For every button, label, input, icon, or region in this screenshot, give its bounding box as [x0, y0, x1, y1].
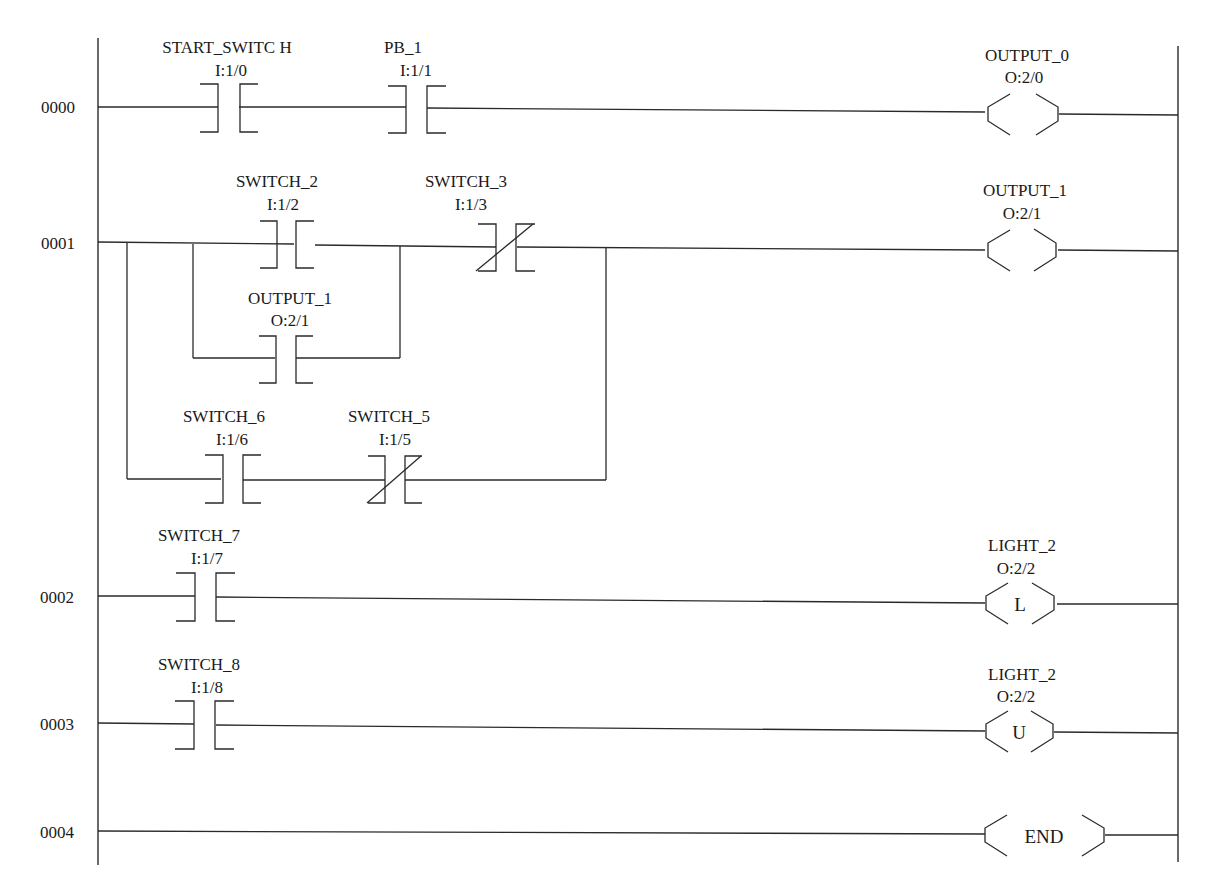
- contact-name: SWITCH_2: [236, 172, 318, 191]
- contact-address: I:1/6: [216, 430, 248, 449]
- coil-symbol: U: [1012, 722, 1026, 743]
- coil-address: O:2/0: [1005, 68, 1044, 87]
- rung-0000: 0000 START_SWITC H I:1/0 PB_1 I:1/1 OU: [41, 38, 1178, 135]
- contact-switch-6[interactable]: SWITCH_6 I:1/6: [183, 407, 265, 503]
- contact-address: I:1/5: [379, 430, 411, 449]
- contact-switch-7[interactable]: SWITCH_7 I:1/7: [158, 526, 241, 621]
- contact-address: I:1/3: [455, 195, 487, 214]
- output-coil-icon: [988, 229, 1056, 271]
- rung-0004: 0004 END: [40, 815, 1178, 856]
- coil-symbol: L: [1014, 594, 1026, 615]
- coil-address: O:2/2: [997, 559, 1036, 578]
- contact-pb-1[interactable]: PB_1 I:1/1: [384, 38, 446, 133]
- no-contact-icon: [259, 336, 313, 383]
- contact-name: SWITCH_6: [183, 407, 265, 426]
- coil-name: OUTPUT_0: [985, 46, 1069, 65]
- coil-output-0[interactable]: OUTPUT_0 O:2/0: [985, 46, 1069, 135]
- coil-output-1[interactable]: OUTPUT_1 O:2/1: [983, 181, 1067, 271]
- contact-switch-2[interactable]: SWITCH_2 I:1/2: [236, 172, 318, 268]
- rung-number: 0002: [40, 588, 74, 607]
- coil-symbol: END: [1024, 826, 1063, 847]
- coil-address: O:2/2: [997, 687, 1036, 706]
- contact-address: I:1/8: [191, 678, 223, 697]
- rung-0002: 0002 SWITCH_7 I:1/7 LIGHT_2 O:2/2 L: [40, 526, 1178, 624]
- contact-name: SWITCH_3: [425, 172, 507, 191]
- rung-number: 0001: [41, 234, 75, 253]
- rung-number: 0004: [40, 823, 75, 842]
- no-contact-icon: [388, 86, 446, 133]
- coil-name: OUTPUT_1: [983, 181, 1067, 200]
- rung-number: 0003: [40, 715, 74, 734]
- contact-name: SWITCH_8: [158, 655, 240, 674]
- contact-name: START_SWITC H: [162, 38, 291, 57]
- end-instruction[interactable]: END: [985, 815, 1104, 856]
- rung-number: 0000: [41, 98, 75, 117]
- contact-name: SWITCH_7: [158, 526, 241, 545]
- contact-start-switch[interactable]: START_SWITC H I:1/0: [162, 38, 291, 132]
- contact-name: SWITCH_5: [348, 407, 430, 426]
- contact-address: I:1/7: [191, 549, 224, 568]
- contact-address: O:2/1: [271, 311, 310, 330]
- contact-switch-5[interactable]: SWITCH_5 I:1/5: [348, 407, 430, 503]
- no-contact-icon: [200, 84, 258, 132]
- coil-light-2-latch[interactable]: LIGHT_2 O:2/2 L: [986, 536, 1056, 624]
- rung-0001: 0001 SWITCH_2 I:1/2 SWITCH_3 I:1/3: [41, 172, 1178, 503]
- coil-address: O:2/1: [1003, 204, 1042, 223]
- rung-0003: 0003 SWITCH_8 I:1/8 LIGHT_2 O:2/2 U: [40, 655, 1178, 752]
- contact-output-1[interactable]: OUTPUT_1 O:2/1: [248, 289, 332, 383]
- output-coil-icon: [988, 94, 1058, 135]
- contact-switch-3[interactable]: SWITCH_3 I:1/3: [425, 172, 535, 271]
- coil-name: LIGHT_2: [988, 665, 1056, 684]
- contact-address: I:1/0: [215, 61, 247, 80]
- ladder-diagram: 0000 START_SWITC H I:1/0 PB_1 I:1/1 OU: [0, 0, 1208, 891]
- coil-light-2-unlatch[interactable]: LIGHT_2 O:2/2 U: [986, 665, 1056, 752]
- contact-name: PB_1: [384, 38, 422, 57]
- contact-address: I:1/2: [267, 195, 299, 214]
- coil-name: LIGHT_2: [988, 536, 1056, 555]
- contact-name: OUTPUT_1: [248, 289, 332, 308]
- contact-switch-8[interactable]: SWITCH_8 I:1/8: [158, 655, 240, 749]
- contact-address: I:1/1: [400, 61, 432, 80]
